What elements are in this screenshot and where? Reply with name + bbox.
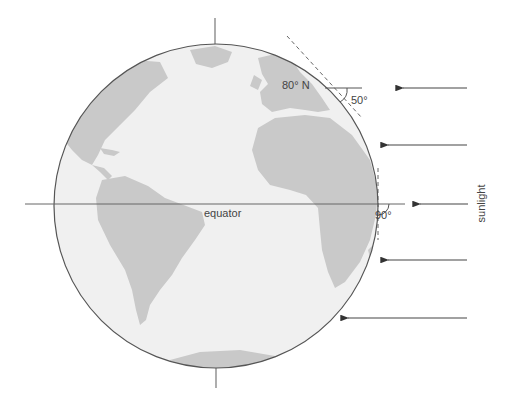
equator-label: equator — [204, 208, 241, 219]
diagram-canvas — [0, 0, 505, 407]
sunlight-label: sunlight — [476, 185, 487, 223]
angle-label-90: 90° — [375, 210, 392, 221]
latitude-label: 80° N — [282, 80, 310, 91]
angle-label-50: 50° — [351, 95, 368, 106]
